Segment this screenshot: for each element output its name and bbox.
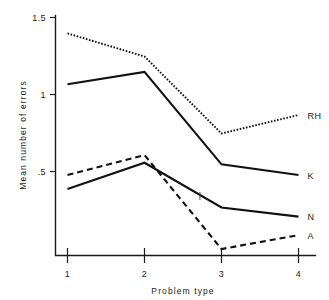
y-tick-label-1: 1 [41,90,46,100]
series-labels-group: RHKAN [308,111,322,241]
x-tick-label-1: 1 [65,269,70,279]
data-series-group [68,33,299,249]
series-label-k: K [308,171,315,181]
series-label-a: A [308,231,315,241]
line-chart-figure: 1.5 1 .5 1 2 3 4 Problem type Mean numbe… [0,0,329,300]
y-tick-label-0.5: .5 [38,167,46,177]
y-tick-label-1.5: 1.5 [32,13,46,23]
x-tick-label-2: 2 [142,269,147,279]
chart-canvas: 1.5 1 .5 1 2 3 4 Problem type Mean numbe… [0,0,329,300]
series-label-rh: RH [308,111,322,121]
series-line-k [68,72,299,175]
series-label-n: N [308,212,315,222]
y-axis-title: Mean number of errors [18,80,28,190]
x-tick-label-4: 4 [296,269,301,279]
x-axis-title: Problem type [151,286,214,296]
chart-axes [50,16,316,264]
axis-lines [56,16,316,256]
series-line-a [68,155,299,249]
x-tick-label-3: 3 [219,269,224,279]
